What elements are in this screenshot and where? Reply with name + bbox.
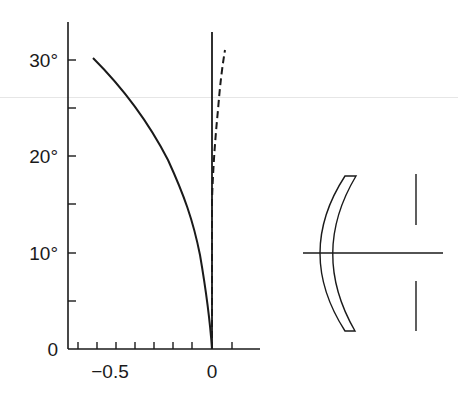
axes [68, 22, 260, 349]
solid-curve [93, 58, 212, 349]
dashed-curve [212, 50, 225, 349]
y-tick-label-30: 30° [29, 50, 58, 71]
y-ticks [68, 60, 76, 301]
aberration-chart: 30° 20° 10° 0 −0.5 0 [0, 0, 458, 396]
x-ticks [78, 342, 232, 349]
x-tick-label-0: 0 [207, 361, 218, 382]
lens-diagram [303, 174, 443, 331]
x-tick-label-neg0.5: −0.5 [91, 361, 129, 382]
y-tick-label-20: 20° [29, 146, 58, 167]
y-tick-label-10: 10° [29, 243, 58, 264]
y-tick-label-0: 0 [47, 339, 58, 360]
